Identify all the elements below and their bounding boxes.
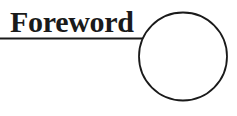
underline-and-circle-decoration (0, 0, 237, 116)
circle-ornament (139, 13, 227, 101)
